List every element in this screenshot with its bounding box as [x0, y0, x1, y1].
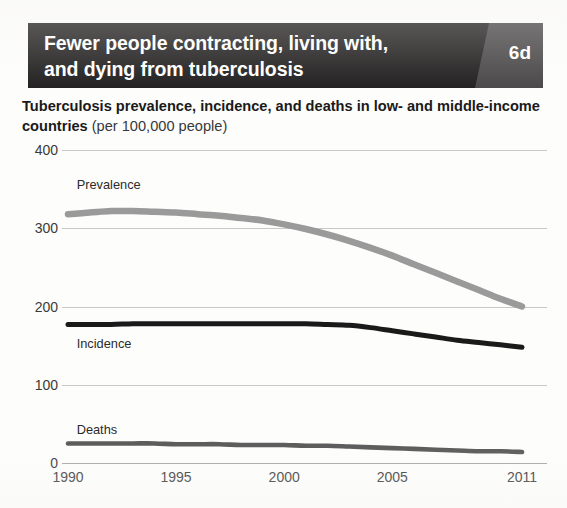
- chart-subtitle: Tuberculosis prevalence, incidence, and …: [22, 96, 542, 136]
- x-axis-tick-label: 2011: [492, 470, 552, 485]
- x-axis-tick-label: 2000: [254, 470, 314, 485]
- series-line-prevalence: [68, 211, 522, 307]
- x-axis-tick-label: 2005: [362, 470, 422, 485]
- series-label-prevalence: Prevalence: [77, 178, 141, 192]
- series-line-deaths: [68, 443, 522, 452]
- chart-subtitle-unit: (per 100,000 people): [92, 118, 228, 134]
- header-title-line-1: Fewer people contracting, living with,: [44, 32, 388, 54]
- y-axis-tick-label: 100: [12, 378, 58, 392]
- gridline: [62, 150, 547, 151]
- x-axis-tick-label: 1990: [38, 470, 98, 485]
- x-axis-line: [62, 463, 547, 464]
- gridline: [62, 385, 547, 386]
- y-axis-tick-label: 200: [12, 300, 58, 314]
- series-label-incidence: Incidence: [77, 337, 132, 351]
- header-banner: Fewer people contracting, living with, a…: [28, 23, 543, 88]
- header-title-line-2: and dying from tuberculosis: [44, 58, 304, 80]
- gridline: [62, 307, 547, 308]
- header-title: Fewer people contracting, living with, a…: [44, 30, 464, 82]
- infographic-page: Fewer people contracting, living with, a…: [0, 0, 567, 508]
- y-axis-tick-label: 300: [12, 221, 58, 235]
- y-axis-tick-label: 0: [12, 456, 58, 470]
- x-axis-tick-label: 1995: [146, 470, 206, 485]
- series-line-incidence: [68, 324, 522, 348]
- header-badge-label: 6d: [509, 42, 531, 64]
- series-label-deaths: Deaths: [77, 423, 118, 437]
- gridline: [62, 228, 547, 229]
- y-axis-tick-label: 400: [12, 143, 58, 157]
